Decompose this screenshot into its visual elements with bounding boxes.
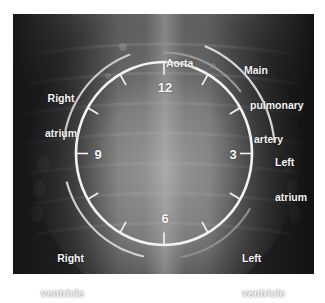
clock-tick [202,74,208,85]
clock-tick [202,222,208,233]
clock-tick [120,222,126,233]
label-right-ventricle: Right ventricle [40,230,84,303]
clock-tick [230,193,240,199]
label-aorta: Aorta [166,35,193,81]
label-left-ventricle: Left ventricle [242,230,285,303]
label-right-atrium: Right atrium [44,70,78,151]
clock-tick [88,108,98,114]
clock-number-6: 6 [161,212,168,225]
clock-tick [120,74,126,85]
clock-number-12: 12 [158,81,172,94]
clock-tick [230,108,240,114]
clock-number-3: 3 [229,148,236,161]
clock-tick [88,193,98,199]
left-ventricle-arc [182,209,250,257]
clock-number-9: 9 [94,148,101,161]
label-left-atrium: Left atrium [275,134,307,215]
